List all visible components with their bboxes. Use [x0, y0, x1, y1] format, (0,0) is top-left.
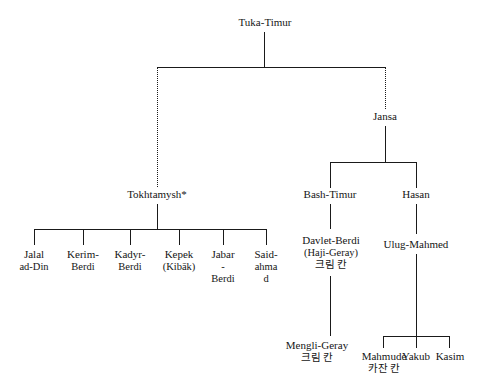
connector-hasan-stem — [416, 204, 417, 234]
node-tuka-timur: Tuka-Timur — [215, 16, 315, 29]
connector-tokhtamysh-child-6 — [266, 229, 267, 245]
node-label: Tuka-Timur — [239, 16, 292, 28]
connector-jansa-stem — [385, 126, 386, 162]
connector-root-to-tokhtamysh-dotted — [157, 67, 158, 187]
connector-tokhtamysh-child-3 — [130, 229, 131, 245]
node-tokhtamysh: Tokhtamysh* — [107, 188, 207, 201]
node-label-line1: Kasim — [436, 350, 465, 362]
node-label: Jansa — [373, 110, 397, 122]
node-label-korean: 카잔 칸 — [355, 363, 413, 375]
node-label-line1: Jabar — [211, 248, 234, 260]
node-hasan: Hasan — [386, 188, 446, 201]
node-bash-timur: Bash-Timur — [290, 188, 370, 201]
connector-tokhtamysh-child-1 — [34, 229, 35, 245]
node-label-line1: Davlet-Berdi — [302, 234, 359, 246]
connector-root-to-jansa-dotted — [385, 67, 386, 109]
node-label-line1: Kadyr- — [115, 248, 146, 260]
connector-ulug-mahmed-stem — [416, 254, 417, 336]
node-label-line2: (Haji-Geray) — [285, 247, 377, 259]
node-label: Tokhtamysh* — [127, 188, 187, 200]
connector-root-bus — [157, 67, 386, 68]
connector-tokhtamysh-child-5 — [223, 229, 224, 245]
connector-tokhtamysh-bus — [34, 229, 266, 230]
genealogy-diagram: Tuka-Timur Jansa Tokhtamysh* Jalal ad-Di… — [0, 0, 486, 386]
node-label-line1: Kepek — [165, 248, 194, 260]
connector-jansa-to-hasan — [416, 162, 417, 188]
node-label: Bash-Timur — [304, 188, 357, 200]
node-label-line1: Mengli-Geray — [286, 339, 348, 351]
node-label-line1: Kerim- — [67, 248, 99, 260]
connector-ulug-mahmed-child-2 — [416, 336, 417, 348]
connector-jansa-bus — [330, 162, 416, 163]
node-label-korean: 크림 칸 — [285, 259, 377, 271]
node-jansa: Jansa — [345, 110, 425, 123]
connector-tokhtamysh-stem — [157, 204, 158, 229]
connector-ulug-mahmed-child-3 — [449, 336, 450, 348]
node-label-line1: Yakub — [402, 350, 430, 362]
connector-davlet-berdi-to-mengli-geray — [330, 276, 331, 336]
connector-tokhtamysh-child-4 — [179, 229, 180, 245]
connector-jansa-to-bash-timur — [330, 162, 331, 188]
connector-root-stem — [264, 32, 265, 67]
node-label-line1: Jalal — [24, 248, 44, 260]
node-label-line1: Said- — [254, 248, 277, 260]
node-label-line3: d — [240, 273, 292, 285]
node-label-korean: 크림 칸 — [271, 352, 363, 364]
connector-tokhtamysh-child-2 — [83, 229, 84, 245]
node-mengli-geray: Mengli-Geray 크림 칸 — [271, 339, 363, 364]
node-label: Hasan — [402, 188, 430, 200]
connector-ulug-mahmed-child-1 — [383, 336, 384, 348]
node-label: Ulug-Mahmed — [384, 238, 449, 250]
node-kasim: Kasim — [428, 350, 472, 363]
node-davlet-berdi: Davlet-Berdi (Haji-Geray) 크림 칸 — [285, 234, 377, 271]
node-ulug-mahmed: Ulug-Mahmed — [371, 238, 461, 251]
connector-bash-timur-stem — [330, 204, 331, 229]
